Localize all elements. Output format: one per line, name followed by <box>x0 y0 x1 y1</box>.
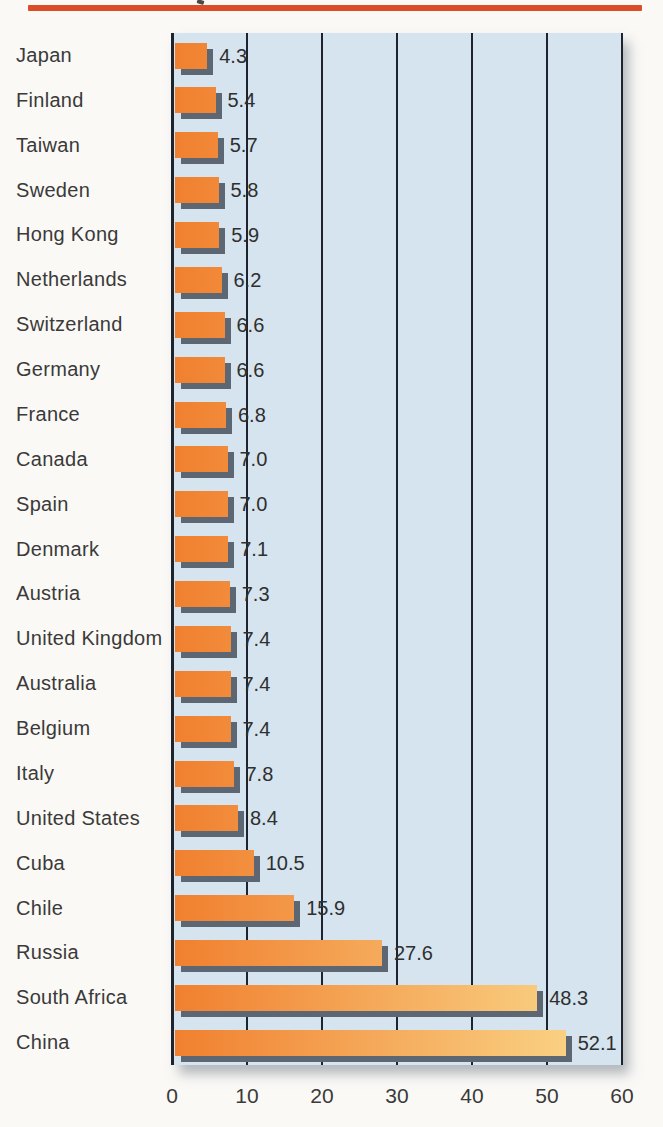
country-label: United States <box>16 796 166 841</box>
bar <box>175 402 226 428</box>
value-label: 6.2 <box>234 267 262 293</box>
country-label: Hong Kong <box>16 213 166 258</box>
bar <box>175 312 225 338</box>
value-label: 7.0 <box>240 446 268 472</box>
country-labels: JapanFinlandTaiwanSwedenHong KongNetherl… <box>16 33 166 1065</box>
value-label: 6.6 <box>237 312 265 338</box>
bar-row: 7.4 <box>172 661 622 706</box>
bar-row: 7.4 <box>172 616 622 661</box>
bar <box>175 1030 566 1056</box>
country-label: Spain <box>16 482 166 527</box>
country-label: Cuba <box>16 841 166 886</box>
country-label: Russia <box>16 931 166 976</box>
bar <box>175 895 294 921</box>
bar <box>175 671 231 697</box>
bar-row: 7.3 <box>172 572 622 617</box>
value-label: 5.4 <box>228 87 256 113</box>
country-label: Switzerland <box>16 302 166 347</box>
value-label: 52.1 <box>578 1030 617 1056</box>
country-label: Italy <box>16 751 166 796</box>
value-label: 7.4 <box>243 626 271 652</box>
bar-row: 8.4 <box>172 796 622 841</box>
value-label: 7.1 <box>240 536 268 562</box>
value-label: 15.9 <box>306 895 345 921</box>
country-label: Australia <box>16 661 166 706</box>
country-label: Japan <box>16 33 166 78</box>
value-label: 6.8 <box>238 402 266 428</box>
bar-row: 15.9 <box>172 886 622 931</box>
bar <box>175 222 219 248</box>
value-label: 5.9 <box>231 222 259 248</box>
bar <box>175 940 382 966</box>
bar <box>175 985 537 1011</box>
country-label: Netherlands <box>16 257 166 302</box>
country-label: France <box>16 392 166 437</box>
x-tick-label: 20 <box>310 1084 333 1108</box>
bar <box>175 626 231 652</box>
bar-row: 27.6 <box>172 931 622 976</box>
bar-row: 48.3 <box>172 975 622 1020</box>
bar-row: 7.1 <box>172 527 622 572</box>
bar-row: 7.0 <box>172 437 622 482</box>
bar <box>175 43 207 69</box>
bar-row: 5.7 <box>172 123 622 168</box>
country-label: China <box>16 1020 166 1065</box>
bar-row: 4.3 <box>172 33 622 78</box>
value-label: 7.8 <box>246 761 274 787</box>
bar <box>175 87 216 113</box>
page: JapanFinlandTaiwanSwedenHong KongNetherl… <box>0 0 663 1127</box>
bar <box>175 132 218 158</box>
x-tick-label: 50 <box>535 1084 558 1108</box>
bar <box>175 267 222 293</box>
value-label: 27.6 <box>394 940 433 966</box>
bar-row: 5.4 <box>172 78 622 123</box>
value-label: 48.3 <box>549 985 588 1011</box>
country-label: Finland <box>16 78 166 123</box>
bar <box>175 761 234 787</box>
x-tick-label: 0 <box>166 1084 178 1108</box>
country-label: South Africa <box>16 975 166 1020</box>
country-label: Canada <box>16 437 166 482</box>
bar-row: 5.8 <box>172 168 622 213</box>
value-label: 7.4 <box>243 716 271 742</box>
bar <box>175 536 228 562</box>
x-tick-label: 60 <box>610 1084 633 1108</box>
bar-rows: 4.35.45.75.85.96.26.66.66.87.07.07.17.37… <box>172 33 622 1065</box>
bar <box>175 716 231 742</box>
value-label: 10.5 <box>266 850 305 876</box>
bar-row: 7.4 <box>172 706 622 751</box>
value-label: 4.3 <box>219 43 247 69</box>
bar-row: 10.5 <box>172 841 622 886</box>
value-label: 5.7 <box>230 132 258 158</box>
value-label: 7.0 <box>240 491 268 517</box>
value-label: 7.3 <box>242 581 270 607</box>
x-tick-label: 30 <box>385 1084 408 1108</box>
country-label: Belgium <box>16 706 166 751</box>
value-label: 5.8 <box>231 177 259 203</box>
plot-area: 4.35.45.75.85.96.26.66.66.87.07.07.17.37… <box>172 33 622 1065</box>
bar <box>175 177 219 203</box>
bar <box>175 850 254 876</box>
bar <box>175 446 228 472</box>
value-label: 6.6 <box>237 357 265 383</box>
bar <box>175 581 230 607</box>
bar-row: 6.6 <box>172 302 622 347</box>
bar <box>175 491 228 517</box>
country-label: Sweden <box>16 168 166 213</box>
bar <box>175 357 225 383</box>
country-label: Austria <box>16 572 166 617</box>
bar-row: 52.1 <box>172 1020 622 1065</box>
bar-row: 7.0 <box>172 482 622 527</box>
country-label: Germany <box>16 347 166 392</box>
x-tick-label: 40 <box>460 1084 483 1108</box>
country-label: Denmark <box>16 527 166 572</box>
bar-row: 5.9 <box>172 213 622 258</box>
value-label: 8.4 <box>250 805 278 831</box>
x-tick-label: 10 <box>235 1084 258 1108</box>
x-axis: 0102030405060 <box>172 1084 622 1114</box>
bar-row: 6.8 <box>172 392 622 437</box>
bar <box>175 805 238 831</box>
country-label: Taiwan <box>16 123 166 168</box>
bar-row: 6.2 <box>172 257 622 302</box>
country-label: United Kingdom <box>16 616 166 661</box>
